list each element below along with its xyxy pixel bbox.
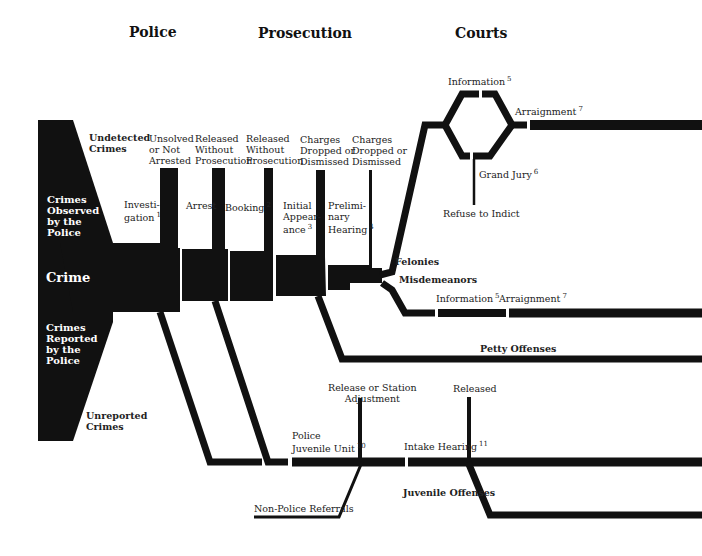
label-petty-offenses: Petty Offenses [480,343,556,354]
label-released-1: Released Without Prosecution [195,133,252,166]
grand-jury-route [445,125,470,156]
label-felonies: Felonies [395,256,439,267]
label-arrest: Arrest [186,200,216,211]
information-route [445,94,479,125]
label-release-station: Release or Station Adjustment [328,382,417,404]
label-arraignment-misdemeanor: Arraignment7 [499,291,567,304]
flow-paths [0,0,702,556]
arrest-block [182,168,228,301]
booking-block [230,168,273,301]
label-released-2: Released Without Prosecution [246,133,303,166]
label-crimes-observed: Crimes Observed by the Police [47,194,99,238]
label-grand-jury: Grand Jury6 [479,167,538,180]
label-initial-appearance: Initial Appear- ance3 [283,200,321,235]
label-crime: Crime [46,272,90,283]
label-misdemeanors: Misdemeanors [399,274,477,285]
label-information-misdemeanor: Information5 [436,291,499,304]
label-released: Released [453,383,497,394]
label-unreported-crimes: Unreported Crimes [86,410,147,432]
header-courts: Courts [455,25,507,41]
juvenile-offense-line [468,462,702,515]
label-juvenile-offenses: Juvenile Offenses [403,487,495,498]
criminal-justice-flow-diagram: Police Prosecution Courts Undetected Cri… [0,0,702,556]
juvenile-route-2 [215,301,288,462]
label-refuse-to-indict: Refuse to Indict [443,208,520,219]
label-preliminary-hearing: Prelimi- nary Hearing4 [328,200,374,235]
label-dropped-1: Charges Dropped or Dismissed [300,134,355,167]
misdemeanor-branch [382,283,435,313]
label-police-juvenile-unit: Police Juvenile Unit10 [292,430,366,454]
header-police: Police [129,24,177,40]
label-intake-hearing: Intake Hearing11 [404,439,488,452]
label-booking: Booking2 [225,200,271,213]
label-undetected-crimes: Undetected Crimes [89,132,150,154]
label-information-felony: Information5 [448,74,511,87]
label-non-police-referrals: Non-Police Referrals [254,503,354,514]
header-prosecution: Prosecution [258,25,352,41]
label-dropped-2: Charges Dropped or Dismissed [352,134,407,167]
label-investigation: Investi- gation1 [124,199,161,223]
label-crimes-reported: Crimes Reported by the Police [46,322,98,366]
label-arraignment-felony: Arraignment7 [515,104,583,117]
label-unsolved: Unsolved or Not Arrested [149,133,194,166]
